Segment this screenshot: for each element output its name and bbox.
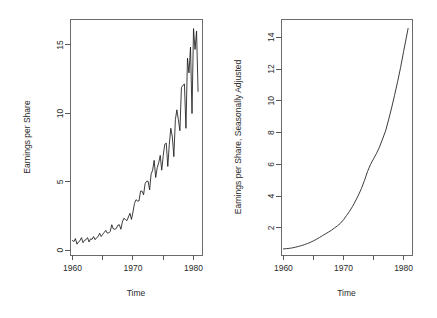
y-tick-label: 4 [266, 194, 276, 199]
y-tick-label: 6 [266, 162, 276, 167]
x-tick-label: 1960 [63, 263, 82, 273]
left-x-axis-title: Time [127, 288, 146, 298]
y-tick-label: 10 [55, 108, 65, 118]
chart-panel-left: 051015 196019701980 Earnings per Share T… [0, 0, 218, 318]
x-tick-label: 1970 [334, 263, 353, 273]
x-tick-label: 1970 [124, 263, 143, 273]
y-tick-label: 14 [266, 32, 276, 42]
y-tick-label: 10 [266, 96, 276, 106]
right-plot-svg: 2468101214 196019701980 Earnings per Sha… [218, 0, 437, 318]
x-tick-label: 1960 [274, 263, 293, 273]
y-tick-label: 12 [266, 64, 276, 74]
left-plot-svg: 051015 196019701980 Earnings per Share T… [0, 0, 218, 318]
y-tick-label: 0 [55, 248, 65, 253]
right-y-axis-title: Earnings per Share, Seasonally Adjusted [233, 59, 243, 214]
chart-panel-right: 2468101214 196019701980 Earnings per Sha… [218, 0, 437, 318]
x-tick-label: 1980 [184, 263, 203, 273]
x-tick-label: 1980 [394, 263, 413, 273]
y-tick-label: 8 [266, 130, 276, 135]
right-x-axis-title: Time [337, 288, 356, 298]
y-tick-label: 5 [55, 179, 65, 184]
y-tick-label: 15 [55, 40, 65, 50]
figure-panel-pair: 051015 196019701980 Earnings per Share T… [0, 0, 437, 318]
y-tick-label: 2 [266, 225, 276, 230]
left-y-axis-title: Earnings per Share [22, 100, 32, 174]
